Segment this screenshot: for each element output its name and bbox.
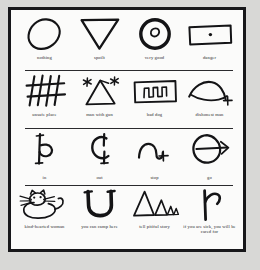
sign-cell-nothing: nothing [17, 14, 72, 71]
oval-sign [24, 17, 66, 51]
sign-label: danger [203, 55, 216, 61]
sign-cell-kind-hearted-woman: kind-hearted woman [17, 186, 72, 247]
sign-cell-in: in [17, 129, 72, 186]
sign-cell-spoilt: spoilt [72, 14, 127, 71]
sign-label: out [96, 175, 102, 181]
crosshatch-grid-sign [23, 74, 67, 108]
sign-label: kind-hearted woman [24, 224, 64, 230]
sign-label: dishonest man [196, 112, 224, 118]
sign-label: nothing [37, 55, 52, 61]
sign-cell-out: out [72, 129, 127, 186]
downward-triangle-sign [78, 17, 122, 51]
triangle-with-stars-sign [76, 74, 124, 108]
sign-label: unsafe place [32, 112, 56, 118]
descending-triangles-sign [130, 189, 180, 221]
sign-cell-pitiful-story: tell pitiful story [127, 186, 182, 247]
sign-cell-bad-dog: bad dog [127, 71, 182, 128]
chart-sheet: nothing spoilt very good [8, 7, 246, 252]
sign-label: you can camp here [81, 224, 118, 230]
sign-cell-camp-here: you can camp here [72, 186, 127, 247]
chart-row-3: in out [17, 129, 237, 186]
sign-label: if you are sick, you will be cared for [182, 224, 237, 235]
sign-label: very good [145, 55, 165, 61]
right-hook-sign [28, 132, 62, 166]
chart-row-1: nothing spoilt very good [17, 14, 237, 71]
chart-row-2: unsafe place [17, 71, 237, 128]
u-shape-sign [80, 189, 120, 221]
chart-row-4: kind-hearted woman you can camp here [17, 186, 237, 247]
arch-with-cross-sign [133, 132, 177, 166]
sign-cell-go: go [182, 129, 237, 186]
sign-label: man with gun [86, 112, 113, 118]
rectangle-with-center-dot-sign [186, 17, 234, 51]
arc-with-cross-sign [185, 74, 235, 108]
sign-cell-dishonest-man: dishonest man [182, 71, 237, 128]
sign-label: stop [150, 175, 158, 181]
sign-label: spoilt [94, 55, 105, 61]
cat-sign [18, 189, 72, 221]
sign-cell-danger: danger [182, 14, 237, 71]
sign-label: go [207, 175, 212, 181]
sign-label: bad dog [147, 112, 163, 118]
left-hook-sign [83, 132, 117, 166]
circle-with-arrow-sign [187, 132, 233, 166]
circle-with-inner-dot-sign [136, 17, 174, 51]
chart-inner: nothing spoilt very good [11, 10, 243, 249]
branch-hook-sign [193, 189, 227, 221]
sign-label: tell pitiful story [139, 224, 170, 230]
sign-cell-stop: stop [127, 129, 182, 186]
sign-cell-unsafe-place: unsafe place [17, 71, 72, 128]
sign-cell-very-good: very good [127, 14, 182, 71]
sign-cell-sick-cared-for: if you are sick, you will be cared for [182, 186, 237, 247]
box-with-teeth-sign [131, 74, 179, 108]
sign-cell-man-with-gun: man with gun [72, 71, 127, 128]
sign-label: in [43, 175, 47, 181]
